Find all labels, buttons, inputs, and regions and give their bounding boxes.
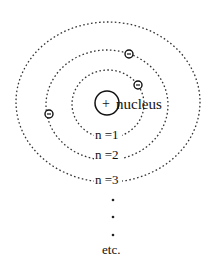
- orbit-label-n2: n =2: [95, 147, 119, 162]
- continuation-dot: [112, 234, 115, 237]
- orbit-label-n3: n =3: [95, 172, 119, 187]
- electron-3: [45, 110, 53, 118]
- electron-2: [134, 81, 142, 89]
- electron-1: [125, 50, 133, 58]
- nucleus-label: nucleus: [116, 96, 162, 112]
- continuation-dot: [112, 199, 115, 202]
- nucleus-plus-sign: +: [102, 96, 110, 111]
- bohr-atom-diagram: + nucleus n =1 n =2 n =3 etc.: [0, 0, 211, 268]
- etc-label: etc.: [102, 242, 120, 257]
- continuation-dot: [112, 216, 115, 219]
- orbit-label-n1: n =1: [95, 127, 119, 142]
